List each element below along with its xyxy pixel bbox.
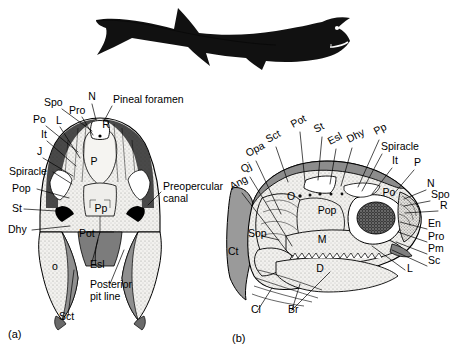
label-b-po: Po [383, 186, 396, 198]
label-b-r: R [440, 199, 448, 211]
label-b-pro: Pro [428, 230, 445, 242]
panel-b-id: (b) [232, 332, 245, 344]
label-b-it: It [392, 154, 398, 166]
label-a-po: Po [33, 113, 46, 125]
label-a-esl: Esl [90, 258, 105, 270]
label-a-pot: Pot [79, 227, 95, 239]
label-b-sop: Sop [248, 227, 267, 239]
label-a-l: L [56, 114, 62, 126]
label-a-st: St [12, 202, 22, 214]
label-b-p: P [414, 156, 421, 168]
label-a-it: It [41, 128, 47, 140]
label-a-sct: Sct [59, 310, 74, 322]
label-b-m: M [318, 233, 327, 245]
label-a-o: o [52, 260, 58, 272]
label-a-pro: Pro [69, 104, 86, 116]
label-b-spiracle: Spiracle [381, 140, 419, 152]
figure-container: SpoNPineal foramenProPoLItJSpiraclePopSt… [0, 0, 462, 353]
label-a-pp: Pp [95, 202, 108, 214]
label-a-p: P [90, 155, 97, 167]
eye-icon [357, 202, 395, 234]
label-b-pop: Pop [318, 204, 337, 216]
label-b-d: D [316, 262, 324, 274]
label-a-j: J [37, 145, 42, 157]
label-a-spiracle: Spiracle [9, 165, 47, 177]
figure-svg: SpoNPineal foramenProPoLItJSpiraclePopSt… [0, 0, 462, 353]
label-b-cl: Cl [251, 303, 261, 315]
label-b-en: En [428, 217, 441, 229]
label-a-prec2: canal [163, 192, 188, 204]
label-b-o: O [287, 190, 295, 202]
label-a-ppl1: Posterior [90, 278, 133, 290]
label-a-prec1: Preopercular [163, 180, 224, 192]
label-b-br: Br [288, 303, 299, 315]
label-a-spo: Spo [44, 96, 63, 108]
panel-a-id: (a) [8, 328, 21, 340]
label-b-l: L [407, 262, 413, 274]
label-a-dhy: Dhy [8, 223, 27, 235]
label-b-ct: Ct [228, 245, 239, 257]
label-a-n: N [88, 90, 96, 102]
fish-eye-icon [335, 26, 339, 30]
label-a-pineal: Pineal foramen [113, 93, 184, 105]
label-a-pop: Pop [12, 182, 31, 194]
label-b-sc: Sc [428, 254, 440, 266]
pineal-foramen-opening [98, 134, 101, 137]
label-b-pm: Pm [428, 242, 444, 254]
label-a-r: R [102, 118, 110, 130]
label-a-ppl2: pit line [90, 290, 121, 302]
